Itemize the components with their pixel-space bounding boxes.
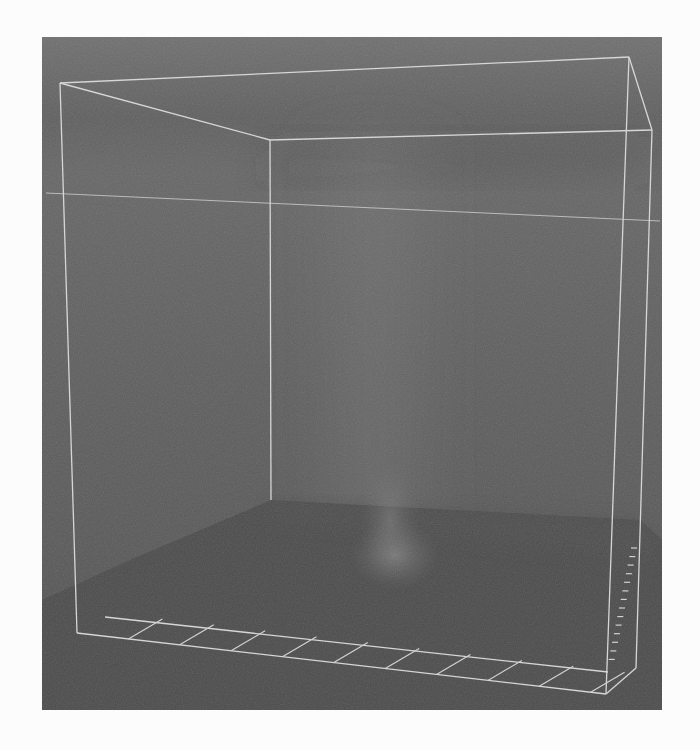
render-stage bbox=[0, 0, 700, 750]
volume-render-viewport bbox=[42, 37, 662, 710]
wireframe-bounding-box bbox=[42, 37, 662, 710]
